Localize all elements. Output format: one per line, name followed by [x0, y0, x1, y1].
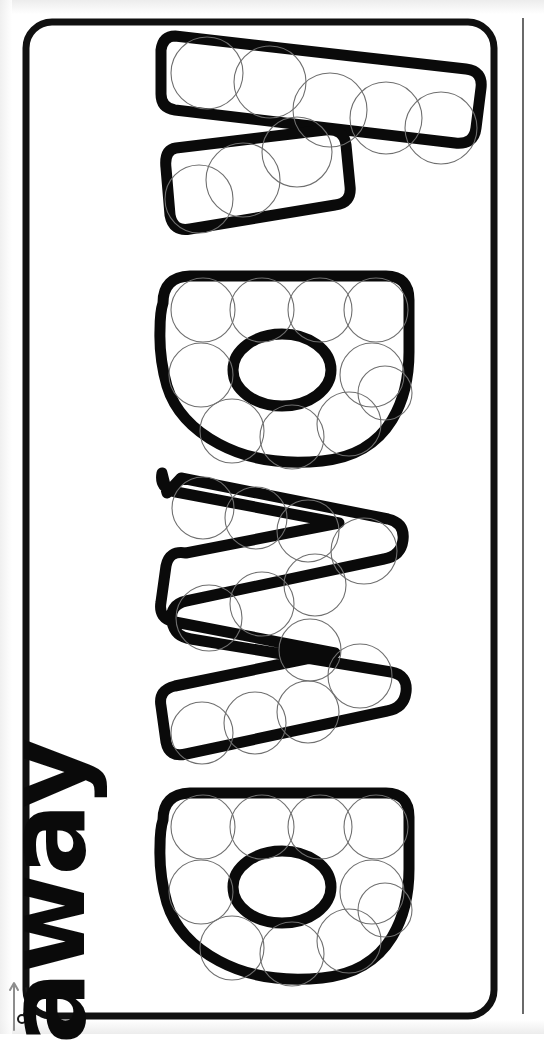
bubble-letter-a-upper — [160, 276, 412, 469]
sight-word-label: away — [0, 727, 101, 1044]
letter-counter — [233, 334, 331, 406]
bubble-letter-y — [161, 36, 481, 233]
bubble-letter-a-lower — [160, 793, 412, 986]
bubble-letter-w — [161, 473, 407, 764]
letter-counter — [233, 851, 331, 923]
